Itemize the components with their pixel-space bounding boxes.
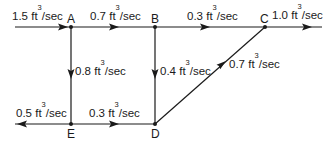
node-label-A: A (67, 13, 75, 25)
flow-label-D-C: 0.7 ft3/sec (229, 58, 280, 70)
flow-label-in-A: 1.5 ft3/sec (12, 10, 63, 22)
flow-label-E-out: 0.5 ft3/sec (16, 107, 67, 119)
flow-label-C-out: 1.0 ft3/sec (272, 9, 323, 21)
flow-label-E-D: 0.3 ft3/sec (89, 107, 140, 119)
flow-label-B-D: 0.4 ft3/sec (160, 65, 211, 77)
node-label-B: B (151, 13, 159, 25)
node-label-C: C (260, 13, 269, 25)
flow-label-B-C: 0.3 ft3/sec (187, 10, 238, 22)
node-label-D: D (151, 128, 160, 140)
node-dot-D (153, 122, 157, 126)
flow-label-A-E: 0.8 ft3/sec (75, 65, 126, 77)
node-label-E: E (67, 128, 75, 140)
flow-label-A-B: 0.7 ft3/sec (90, 10, 141, 22)
node-dot-E (69, 122, 73, 126)
